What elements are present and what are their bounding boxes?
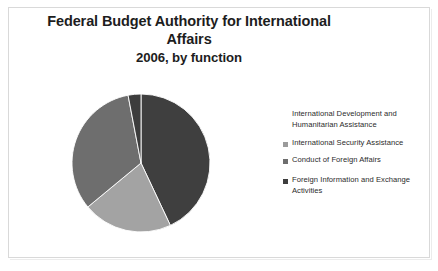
chart-title-line-1: Federal Budget Authority for Internation…	[24, 13, 354, 31]
chart-legend: International Development and Humanitari…	[283, 109, 429, 204]
chart-title-line-2: Affairs	[24, 31, 354, 49]
legend-item-foreign-information[interactable]: Foreign Information and Exchange Activit…	[283, 175, 429, 197]
slide-canvas: Federal Budget Authority for Internation…	[0, 0, 438, 271]
chart-title-line-3: 2006, by function	[24, 50, 354, 66]
legend-swatch-international-security	[283, 142, 288, 147]
pie-slices-group	[72, 94, 210, 232]
legend-label-international-development: International Development and Humanitari…	[292, 109, 429, 131]
legend-label-foreign-information: Foreign Information and Exchange Activit…	[292, 175, 429, 197]
legend-label-conduct-foreign-affairs: Conduct of Foreign Affairs	[292, 155, 381, 166]
legend-swatch-conduct-foreign-affairs	[283, 159, 288, 164]
pie-chart-svg	[62, 86, 222, 271]
legend-swatch-foreign-information	[283, 179, 288, 184]
legend-label-international-security: International Security Assistance	[292, 138, 403, 149]
legend-item-international-security[interactable]: International Security Assistance	[283, 138, 429, 149]
chart-title: Federal Budget Authority for Internation…	[24, 13, 354, 66]
pie-chart	[62, 86, 222, 271]
legend-item-international-development[interactable]: International Development and Humanitari…	[283, 109, 429, 131]
legend-swatch-international-development	[283, 113, 288, 118]
legend-item-conduct-foreign-affairs[interactable]: Conduct of Foreign Affairs	[283, 155, 429, 166]
